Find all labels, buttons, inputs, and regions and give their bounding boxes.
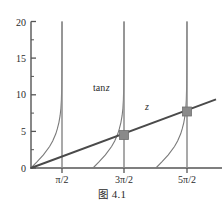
y-axis-ticks bbox=[31, 22, 36, 169]
tan-curve-group bbox=[31, 22, 187, 169]
intersection-marker-1 bbox=[120, 131, 129, 140]
x-tick-label-pi-over-2: π/2 bbox=[56, 174, 69, 185]
axes-group bbox=[30, 22, 222, 169]
tan-branch-2 bbox=[93, 22, 124, 169]
x-tick-label-3pi-over-2: 3π/2 bbox=[115, 174, 133, 185]
y-tick-label-10: 10 bbox=[16, 89, 26, 100]
tan-z-label-fn: tan bbox=[93, 82, 105, 93]
tan-branch-3 bbox=[156, 22, 187, 169]
y-axis-tick-labels: 0 5 10 15 20 bbox=[16, 17, 26, 174]
y-tick-label-5: 5 bbox=[21, 126, 26, 137]
figure-caption: 图 4.1 bbox=[0, 186, 224, 201]
intersection-marker-2 bbox=[183, 107, 192, 116]
figure-caption-number: 4.1 bbox=[112, 188, 127, 200]
z-label: z bbox=[144, 101, 149, 112]
tan-z-plot: 0 5 10 15 20 π/2 3π/2 5π/2 bbox=[0, 0, 224, 209]
x-tick-label-5pi-over-2: 5π/2 bbox=[178, 174, 196, 185]
y-tick-label-15: 15 bbox=[16, 53, 26, 64]
y-tick-label-0: 0 bbox=[21, 163, 26, 174]
curve-annotations: tanz z bbox=[93, 82, 149, 112]
tan-z-label-var: z bbox=[105, 82, 110, 93]
figure-caption-cjk: 图 bbox=[98, 188, 108, 200]
y-tick-label-20: 20 bbox=[16, 17, 26, 28]
tan-z-label: tanz bbox=[93, 82, 110, 93]
x-axis-ticks bbox=[62, 168, 187, 173]
figure-container: 0 5 10 15 20 π/2 3π/2 5π/2 bbox=[0, 0, 224, 209]
asymptote-group bbox=[62, 22, 187, 169]
x-axis-tick-labels: π/2 3π/2 5π/2 bbox=[56, 174, 196, 185]
